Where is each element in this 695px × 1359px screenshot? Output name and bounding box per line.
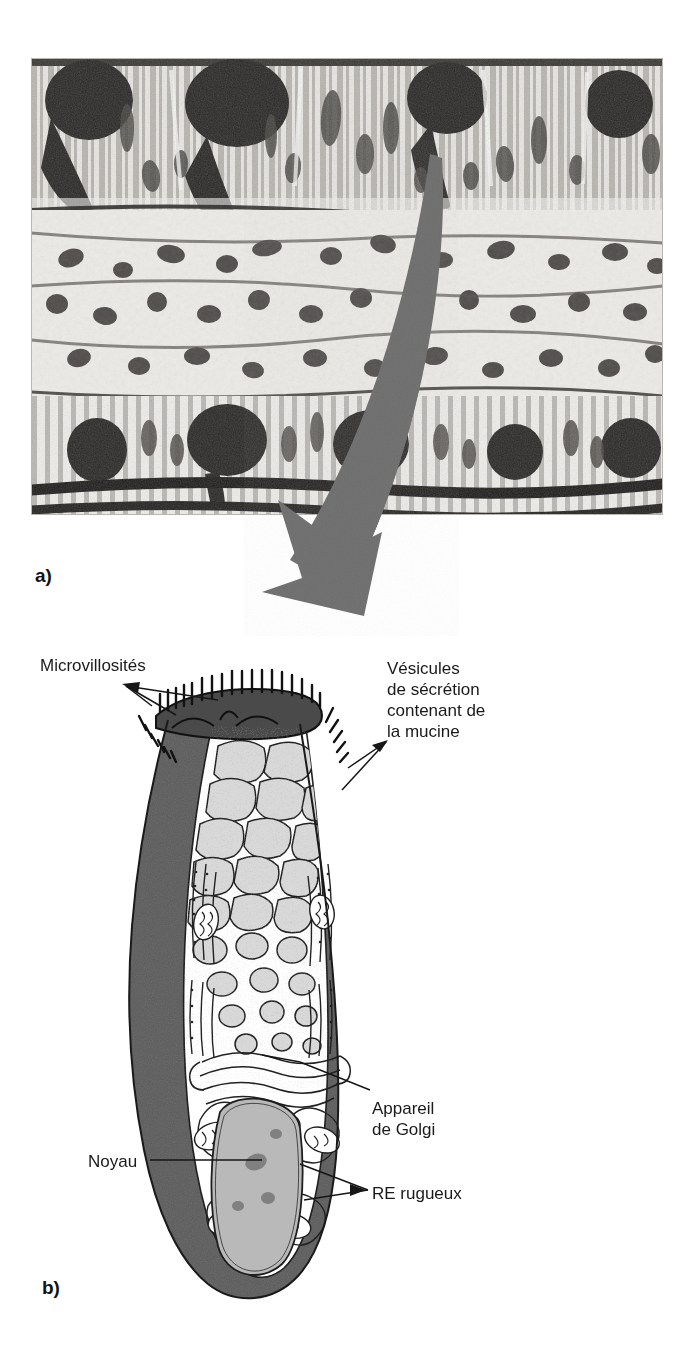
- goblet-cell-diagram: [60, 650, 460, 1330]
- nucleus: [211, 1099, 302, 1275]
- panel-letter-a: a): [35, 565, 52, 587]
- panel-letter-b: b): [42, 1277, 60, 1299]
- micrograph-image: [31, 58, 663, 515]
- label-re-rugueux: RE rugueux: [372, 1183, 462, 1204]
- label-appareil-de-golgi: Appareil de Golgi: [372, 1098, 435, 1140]
- figure-root: a): [0, 0, 695, 1359]
- label-vesicules-de-secretion: Vésicules de sécrétion contenant de la m…: [387, 658, 485, 742]
- label-noyau: Noyau: [88, 1151, 137, 1172]
- label-microvillosites: Microvillosités: [40, 655, 146, 676]
